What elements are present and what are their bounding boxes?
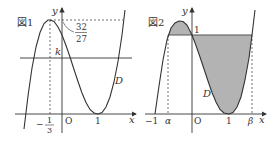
fig2-x-tick-1: 1 [226, 116, 232, 126]
fig1-y-label: y [51, 5, 58, 16]
fig2-x-label: x [259, 114, 265, 125]
fig1-leader-line [63, 22, 74, 32]
fig1-neg-third-den: 3 [47, 126, 52, 135]
fig1-neg-third-num: 1 [47, 116, 52, 125]
fig2-origin-label: O [194, 116, 201, 126]
fig1-curve-D [24, 10, 125, 129]
fig1-x-tick-1: 1 [95, 116, 101, 126]
fig1-x-label: x [129, 114, 135, 125]
fig2-shade-right [192, 35, 252, 114]
fig1-k-label: k [55, 46, 61, 57]
fig2-x-tick-neg1: −1 [145, 116, 158, 126]
fig1-curve-label: D [114, 75, 123, 86]
fig2-label: 図2 [148, 17, 164, 28]
fig2-y-tick-1: 1 [194, 25, 200, 35]
diagram-canvas: 図1 y x O 32 27 k D 1 − 1 3 図2 y x O 1 [0, 0, 279, 143]
fig1-label: 図1 [17, 17, 33, 28]
fig1-max-den: 27 [76, 34, 87, 44]
fig1-origin-label: O [65, 116, 72, 126]
figure-1: 図1 y x O 32 27 k D 1 − 1 3 [15, 5, 136, 135]
fig1-max-num: 32 [76, 22, 87, 32]
fig2-curve-label: D [202, 88, 211, 99]
fig1-neg-third-sign: − [36, 119, 44, 129]
figure-2: 図2 y x O 1 −1 α 1 β D [145, 5, 266, 133]
fig2-x-tick-alpha: α [165, 116, 171, 126]
fig2-y-label: y [181, 5, 188, 16]
fig2-x-tick-beta: β [247, 116, 253, 126]
